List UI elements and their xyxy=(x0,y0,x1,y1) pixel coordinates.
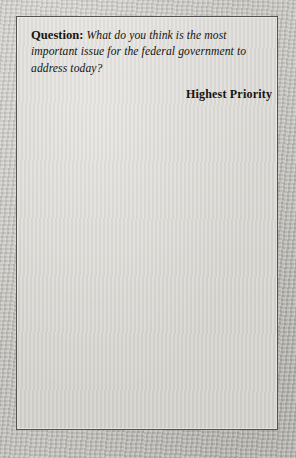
chart-panel: Question: What do you think is the most … xyxy=(16,16,278,430)
question-text: Question: What do you think is the most … xyxy=(31,27,265,77)
question-label: Question: xyxy=(31,28,83,42)
chart-column-header: Highest Priority xyxy=(165,87,293,102)
